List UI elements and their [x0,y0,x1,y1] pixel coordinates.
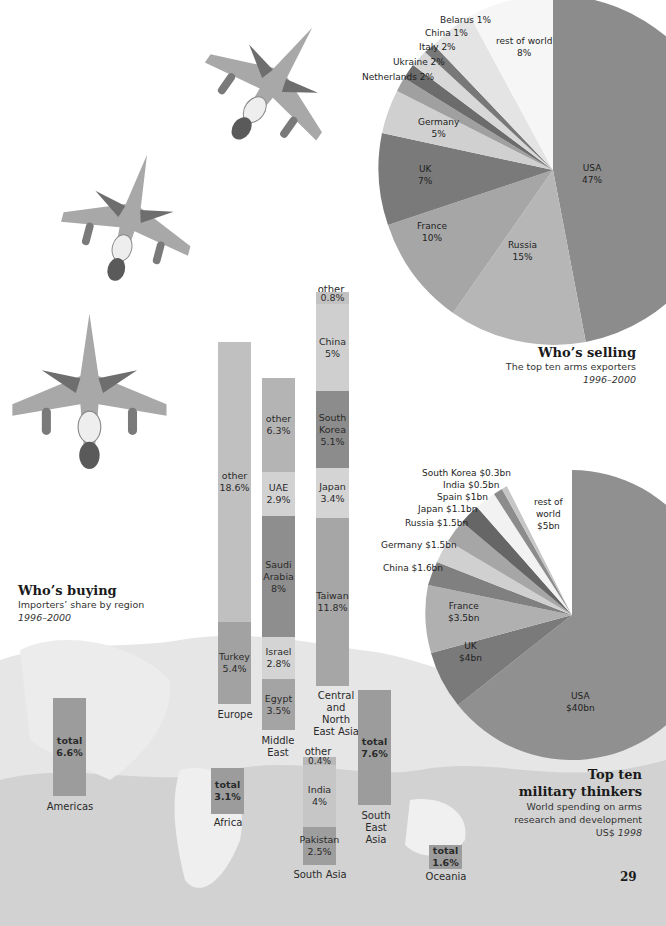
region-label-south-east-asia: South EastAsia [350,810,402,846]
buying-subtitle: Importers’ share by region [18,598,144,611]
bar-middle-east: other6.3% UAE2.9% SaudiArabia8% Israel2.… [262,378,295,730]
pie1-label-netherlands: Netherlands 2% [362,72,434,83]
bar-americas: total6.6% [53,698,86,796]
bar-south-asia: 0.4% India4% Pakistan2.5% [303,757,336,865]
buying-title: Who’s buying [18,583,144,598]
segment-americas-total: total6.6% [53,698,86,796]
pie1-label-china: China 1% [425,28,468,39]
page-number: 29 [620,870,637,884]
region-label-south-asia: South Asia [290,869,350,881]
pie2-label-india: India $0.5bn [443,480,499,491]
segment-cne-asia-south-korea: SouthKorea5.1% [316,391,349,468]
segment-middle-east-saudi-arabia: SaudiArabia8% [262,516,295,637]
thinkers-title-line2: military thinkers [514,783,642,800]
pie1-label-russia: Russia15% [508,239,537,263]
region-label-americas: Americas [45,801,95,813]
thinkers-title-line1: Top ten [514,766,642,783]
thinkers-subtitle-line2: research and development [514,813,642,826]
segment-africa-total: total3.1% [211,768,244,814]
region-label-central-north-east-asia: CentralandNorthEast Asia [312,690,360,738]
pie2-label-france: France$3.5bn [448,600,479,624]
region-label-middle-east: MiddleEast [255,735,301,759]
segment-middle-east-egypt: Egypt3.5% [262,679,295,730]
segment-south-asia-other: 0.4% [303,757,336,765]
selling-caption: Who’s selling The top ten arms exporters… [506,345,636,386]
segment-oceania-total: total1.6% [429,845,462,869]
pie1-label-italy: Italy 2% [419,42,456,53]
segment-cne-asia-china: China5% [316,304,349,391]
pie2-label-japan: Japan $1.1bn [418,504,477,515]
buying-period: 1996–2000 [18,611,144,624]
pie2-label-rest-of-world: rest ofworld$5bn [534,496,563,532]
pie2-label-russia: Russia $1.5bn [405,518,468,529]
pie2-label-usa: USA$40bn [566,690,595,714]
selling-subtitle: The top ten arms exporters [506,360,636,373]
segment-south-east-asia-total: total7.6% [358,690,391,805]
thinkers-caption: Top ten military thinkers World spending… [514,766,642,839]
pie2-label-germany: Germany $1.5bn [381,540,457,551]
pie1-label-rest-of-world: rest of world8% [496,35,552,59]
segment-middle-east-other: other6.3% [262,378,295,472]
selling-title: Who’s selling [506,345,636,360]
pie1-label-usa: USA47% [582,162,602,186]
segment-south-asia-india: India4% [303,765,336,827]
pie2-label-china: China $1.6bn [383,563,443,574]
pie2-label-uk: UK$4bn [459,640,482,664]
segment-cne-asia-taiwan: Taiwan11.8% [316,518,349,686]
segment-middle-east-uae: UAE2.9% [262,472,295,516]
segment-cne-asia-japan: Japan3.4% [316,468,349,518]
pie1-label-ukraine: Ukraine 2% [393,57,445,68]
pie1-label-germany: Germany5% [418,116,459,140]
bar-central-north-east-asia: 0.8% China5% SouthKorea5.1% Japan3.4% Ta… [316,292,349,686]
segment-cne-asia-other: 0.8% [316,292,349,304]
segment-europe-turkey: Turkey5.4% [218,622,251,704]
pie2-label-south-korea: South Korea $0.3bn [422,468,511,479]
bar-africa: total3.1% [211,768,244,814]
region-label-africa: Africa [205,817,251,829]
region-label-oceania: Oceania [424,871,468,883]
pie1-label-france: France10% [417,220,447,244]
segment-south-asia-pakistan: Pakistan2.5% [303,827,336,865]
pie1-label-uk: UK7% [418,163,432,187]
thinkers-unit: US$ 1998 [514,826,642,839]
region-label-europe: Europe [210,709,260,721]
bar-oceania: total1.6% [429,845,462,869]
bar-south-east-asia: total7.6% [358,690,391,805]
buying-caption: Who’s buying Importers’ share by region … [18,583,144,624]
thinkers-subtitle-line1: World spending on arms [514,800,642,813]
segment-europe-other: other18.6% [218,342,251,622]
segment-middle-east-israel: Israel2.8% [262,637,295,679]
bar-europe: other18.6% Turkey5.4% [218,342,251,704]
selling-period: 1996–2000 [506,373,636,386]
pie2-label-spain: Spain $1bn [437,492,488,503]
pie1-label-belarus: Belarus 1% [440,15,491,26]
